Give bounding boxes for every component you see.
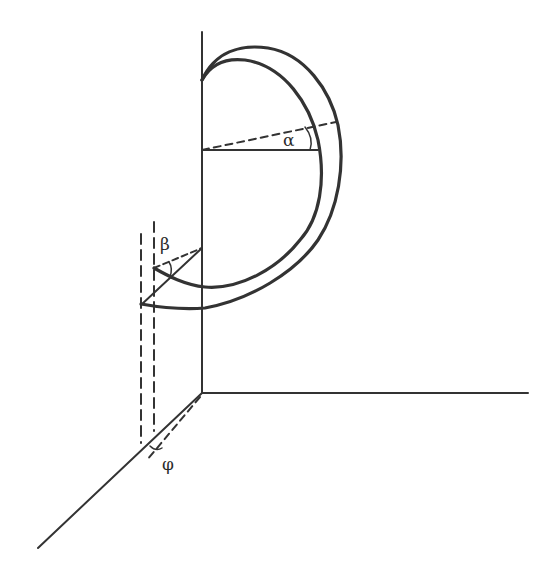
diagram-figure: α β φ: [0, 0, 541, 562]
beta-label: β: [160, 234, 170, 254]
alpha-angle-arc: [305, 127, 311, 150]
phi-label: φ: [162, 454, 174, 474]
beta-solid-line: [141, 248, 202, 305]
diagonal-axis: [38, 393, 202, 548]
alpha-label: α: [283, 130, 295, 150]
inner-loop-curve: [154, 60, 321, 288]
